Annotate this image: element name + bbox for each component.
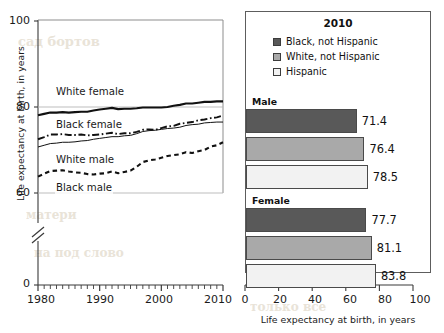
bar-x-tick-80: 80 bbox=[365, 294, 405, 305]
bar-value-male-hispanic: 78.5 bbox=[373, 165, 398, 189]
line-x-tick-1990: 1990 bbox=[78, 294, 122, 305]
line-x-tick-2000: 2000 bbox=[137, 294, 181, 305]
bar-value-female-hispanic: 83.8 bbox=[381, 264, 406, 288]
line-y-tick-0: 0 bbox=[4, 278, 30, 289]
bar-x-tick-100: 100 bbox=[400, 294, 440, 305]
line-chart-y-axis-title: Life expectancy at birth, in years bbox=[15, 44, 26, 204]
bar-chart-legend: Black, not Hispanic White, not Hispanic … bbox=[273, 35, 380, 80]
line-chart-panel: Life expectancy at birth, in years 100 8… bbox=[0, 0, 232, 333]
bar-female-black-not-hispanic bbox=[246, 208, 366, 232]
line-y-tick-60: 60 bbox=[4, 187, 30, 198]
bar-value-male-black-not-hispanic: 71.4 bbox=[362, 109, 387, 133]
legend-swatch-black-not-hispanic bbox=[273, 38, 281, 46]
bar-chart-title: 2010 bbox=[246, 17, 430, 29]
legend-item-black-not-hispanic: Black, not Hispanic bbox=[273, 35, 380, 49]
bar-value-male-white-not-hispanic: 76.4 bbox=[369, 137, 394, 161]
line-chart-svg bbox=[0, 0, 232, 333]
bar-male-hispanic bbox=[246, 165, 368, 189]
line-y-tick-80: 80 bbox=[4, 101, 30, 112]
bar-chart-panel: 2010 Black, not Hispanic White, not Hisp… bbox=[232, 0, 444, 333]
bar-x-tick-40: 40 bbox=[295, 294, 335, 305]
legend-swatch-white-not-hispanic bbox=[273, 53, 281, 61]
bar-male-white-not-hispanic bbox=[246, 137, 364, 161]
bar-group-label-female: Female bbox=[252, 195, 290, 206]
legend-item-white-not-hispanic: White, not Hispanic bbox=[273, 50, 380, 64]
legend-swatch-hispanic bbox=[273, 68, 281, 76]
bar-chart-x-axis-title: Life expectancy at birth, in years bbox=[232, 314, 444, 325]
bar-value-female-black-not-hispanic: 77.7 bbox=[371, 208, 396, 232]
line-x-tick-1980: 1980 bbox=[19, 294, 63, 305]
legend-label-hispanic: Hispanic bbox=[286, 67, 327, 77]
y-axis-break-mark bbox=[32, 227, 44, 243]
legend-item-hispanic: Hispanic bbox=[273, 65, 380, 79]
series-label-white-female: White female bbox=[55, 87, 125, 98]
line-y-tick-100: 100 bbox=[4, 15, 30, 26]
bar-x-tick-0: 0 bbox=[225, 294, 265, 305]
bar-x-tick-60: 60 bbox=[330, 294, 370, 305]
bar-female-hispanic bbox=[246, 264, 376, 288]
legend-label-black-not-hispanic: Black, not Hispanic bbox=[286, 37, 378, 47]
series-label-white-male: White male bbox=[55, 155, 115, 166]
bar-male-black-not-hispanic bbox=[246, 109, 357, 133]
bar-group-label-male: Male bbox=[252, 96, 277, 107]
bar-female-white-not-hispanic bbox=[246, 236, 372, 260]
bar-chart-box: 2010 Black, not Hispanic White, not Hisp… bbox=[245, 11, 431, 273]
series-label-black-male: Black male bbox=[55, 183, 113, 194]
bar-value-female-white-not-hispanic: 81.1 bbox=[377, 236, 402, 260]
series-label-black-female: Black female bbox=[55, 120, 123, 131]
figure-root: сад бортовРЕ С А ГА С О У Н Т С О Фматер… bbox=[0, 0, 444, 333]
legend-label-white-not-hispanic: White, not Hispanic bbox=[286, 52, 380, 62]
bar-x-tick-20: 20 bbox=[260, 294, 300, 305]
line-series-white-female bbox=[38, 101, 223, 115]
